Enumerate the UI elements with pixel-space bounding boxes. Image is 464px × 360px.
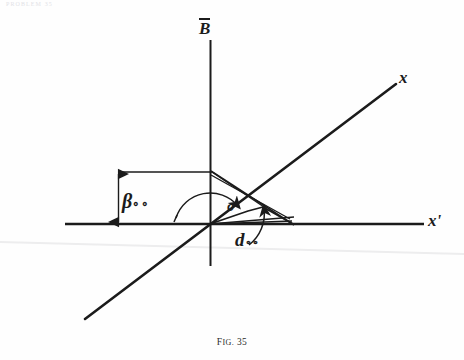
d-subscript: ∘∘ bbox=[245, 236, 261, 248]
figure-page: PROBLEM 35 bbox=[0, 0, 464, 360]
construction-upper-vertex-to-foot-b bbox=[211, 175, 290, 219]
sigma-angle-label: σ bbox=[227, 199, 235, 215]
beta-symbol: β bbox=[122, 190, 132, 212]
sigma-arc-tick bbox=[174, 215, 177, 222]
d-symbol: d bbox=[235, 229, 245, 250]
d-angle-label: d∘∘ bbox=[235, 229, 260, 251]
figure-caption: FIG. 35 bbox=[0, 337, 464, 347]
vertical-axis-label-text: B bbox=[199, 19, 210, 38]
caption-number: 35 bbox=[237, 337, 247, 347]
inclined-axis-label: x bbox=[399, 68, 408, 88]
scan-fold-line bbox=[0, 242, 464, 254]
caption-small-caps: IG. bbox=[222, 338, 234, 347]
vertical-axis-label: B bbox=[199, 18, 210, 39]
horizontal-axis-label: x' bbox=[428, 211, 441, 231]
beta-subscript: ∘∘ bbox=[132, 198, 150, 211]
figure-canvas bbox=[0, 0, 464, 360]
beta-dimension-label: β∘∘ bbox=[122, 190, 150, 213]
